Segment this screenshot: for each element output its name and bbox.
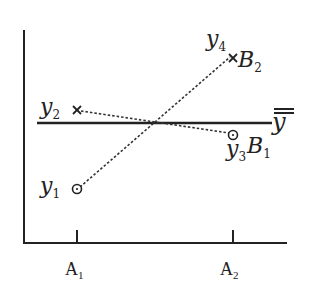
marker-y2-cross-icon bbox=[73, 106, 81, 114]
label-b1: B1 bbox=[247, 135, 271, 160]
label-a2: A2 bbox=[220, 260, 239, 281]
label-a1: A1 bbox=[65, 260, 84, 281]
label-y4: y4 bbox=[206, 28, 226, 53]
label-grand-mean: y bbox=[272, 110, 296, 134]
label-y3: y3 bbox=[226, 138, 246, 163]
marker-y4-cross-icon bbox=[229, 54, 237, 62]
marker-y1-circle-icon bbox=[73, 185, 82, 194]
label-y1: y1 bbox=[40, 175, 60, 200]
label-y2: y2 bbox=[40, 96, 60, 121]
label-b2: B2 bbox=[238, 49, 262, 74]
